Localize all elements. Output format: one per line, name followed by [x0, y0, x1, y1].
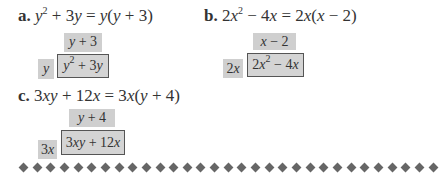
diamond-icon — [128, 163, 138, 173]
diamond-icon — [73, 163, 83, 173]
diamond-icon — [332, 163, 342, 173]
example-a-equation: a. y2 + 3y = y(y + 3) — [18, 6, 153, 26]
diamond-icon — [373, 163, 383, 173]
diamond-icon — [305, 163, 315, 173]
diamond-icon — [169, 163, 179, 173]
example-label: b. — [204, 6, 218, 25]
diamond-icon — [196, 163, 206, 173]
diamond-icon — [100, 163, 110, 173]
example-c-equation: c. 3xy + 12x = 3x(y + 4) — [18, 86, 180, 106]
example-b-equation: b. 2x2 − 4x = 2x(x − 2) — [204, 6, 357, 26]
diamond-icon — [401, 163, 411, 173]
diamond-icon — [346, 163, 356, 173]
diamond-icon — [59, 163, 69, 173]
diamond-icon — [19, 163, 29, 173]
diamond-icon — [428, 163, 438, 173]
diamond-icon — [251, 163, 261, 173]
diamond-icon — [46, 163, 56, 173]
product-box-a: y2 + 3y — [57, 54, 109, 78]
diamond-divider — [20, 160, 440, 176]
diamond-icon — [155, 163, 165, 173]
quotient-box-c: y + 4 — [69, 109, 115, 127]
diamond-icon — [237, 163, 247, 173]
quotient-box-b: x − 2 — [253, 33, 296, 50]
diamond-icon — [319, 163, 329, 173]
factor-box-c: 3x — [38, 140, 57, 159]
factor-box-a: y — [38, 59, 54, 79]
diamond-icon — [141, 163, 151, 173]
diamond-icon — [292, 163, 302, 173]
diamond-icon — [32, 163, 42, 173]
diamond-icon — [387, 163, 397, 173]
diamond-icon — [278, 163, 288, 173]
example-label: c. — [18, 86, 30, 105]
diamond-icon — [182, 163, 192, 173]
product-box-b: 2x2 − 4x — [247, 53, 304, 77]
diamond-icon — [360, 163, 370, 173]
diamond-icon — [264, 163, 274, 173]
diamond-icon — [114, 163, 124, 173]
quotient-box-a: y + 3 — [64, 33, 102, 52]
example-label: a. — [18, 6, 31, 25]
factor-box-b: 2x — [223, 59, 243, 78]
product-box-c: 3xy + 12x — [61, 130, 125, 155]
diamond-icon — [414, 163, 424, 173]
diamond-icon — [87, 163, 97, 173]
diamond-icon — [210, 163, 220, 173]
diamond-icon — [223, 163, 233, 173]
